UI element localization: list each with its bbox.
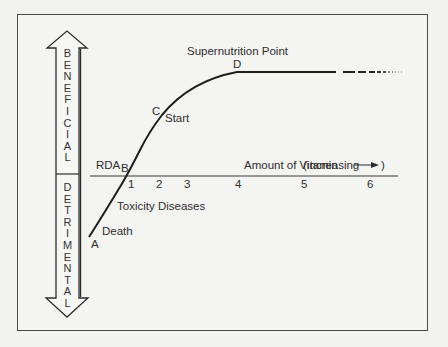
arrow-letter: L: [56, 152, 79, 164]
arrow-letter: B: [56, 48, 79, 60]
start-label: Start: [165, 113, 189, 125]
rda-label: RDA: [96, 160, 120, 172]
arrow-letter: M: [56, 240, 79, 252]
tick-1: 1: [128, 179, 134, 191]
point-d-label: D: [233, 59, 241, 71]
detrimental-label: DETRIMENTAL: [56, 182, 79, 310]
supernutrition-point-label: Supernutrition Point: [187, 46, 288, 58]
point-a-label: A: [91, 239, 99, 251]
tick-5: 5: [301, 179, 307, 191]
toxicity-diseases-label: Toxicity Diseases: [117, 201, 205, 213]
tick-6: 6: [367, 179, 373, 191]
point-b-label: B: [121, 163, 129, 175]
tick-2: 2: [156, 179, 162, 191]
beneficial-label: BENEFICIAL: [56, 48, 79, 164]
death-label: Death: [102, 226, 133, 238]
tick-4: 4: [235, 179, 241, 191]
x-axis-direction-suffix: ): [381, 160, 385, 172]
arrow-letter: I: [56, 106, 79, 118]
arrow-letter: I: [56, 129, 79, 141]
tick-3: 3: [184, 179, 190, 191]
x-axis-direction-label: (increasing: [303, 160, 359, 172]
arrow-letter: D: [56, 182, 79, 194]
arrow-letter: L: [56, 298, 79, 310]
arrow-letter: N: [56, 263, 79, 275]
point-c-label: C: [152, 106, 160, 118]
